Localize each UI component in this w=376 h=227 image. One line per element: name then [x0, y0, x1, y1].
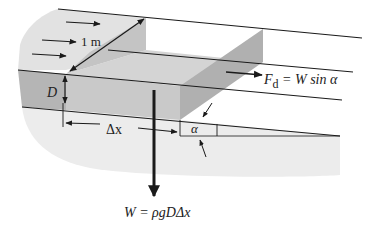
weight-label: W = ρgDΔx [124, 205, 191, 220]
drag-force-equation: = W sin α [279, 72, 338, 87]
drag-force-label: Fd = W sin α [263, 72, 338, 91]
alpha-arrow-top [203, 103, 212, 117]
length-label: Δx [106, 122, 122, 137]
drag-force-symbol: F [263, 72, 273, 87]
width-label: 1 m [81, 34, 101, 49]
depth-label: D [46, 85, 57, 100]
angle-label: α [191, 121, 199, 136]
slab-front-left [18, 70, 66, 110]
fluid-slab-diagram: 1 m D Δx α Fd = W sin α W = ρgDΔx [0, 0, 376, 227]
